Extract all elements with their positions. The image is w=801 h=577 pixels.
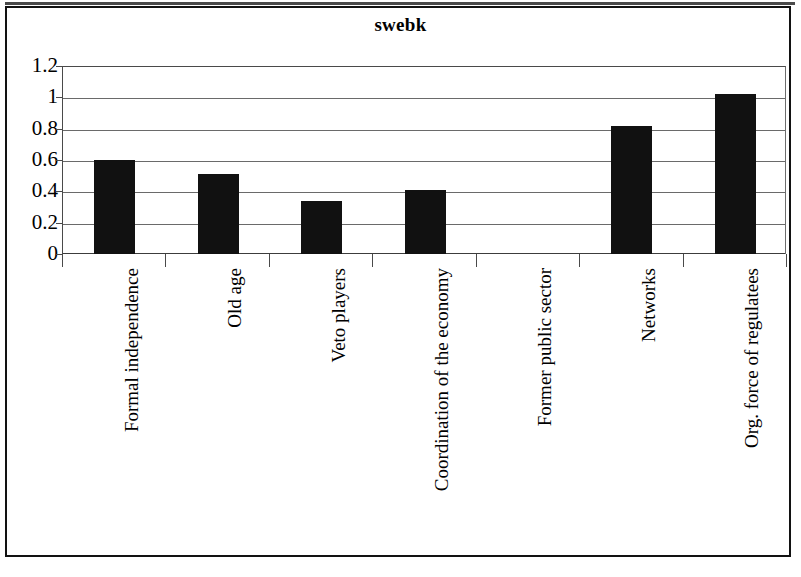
x-axis-label-7: Org. force of regulatees bbox=[742, 268, 762, 448]
x-axis-tick-label: Old age bbox=[225, 268, 245, 328]
x-axis-tick-label: Networks bbox=[639, 268, 659, 342]
bar bbox=[301, 201, 342, 254]
y-axis-tick-label: 0.6 bbox=[2, 149, 58, 170]
chart-title: swebk bbox=[0, 14, 801, 36]
x-axis-tick-label: Coordination of the economy bbox=[432, 268, 452, 491]
y-axis-tick-label: 1.2 bbox=[2, 55, 58, 76]
x-axis-label-6: Networks bbox=[639, 268, 659, 342]
x-axis-tick-mark bbox=[579, 254, 580, 267]
gridline bbox=[63, 130, 785, 131]
x-axis-tick-mark bbox=[683, 254, 684, 267]
y-axis-tick-label: 0 bbox=[2, 243, 58, 264]
y-axis-tick-label: 0.4 bbox=[2, 180, 58, 201]
gridline bbox=[63, 161, 785, 162]
x-axis-label-1: Formal independence bbox=[122, 268, 142, 432]
x-axis-tick-mark bbox=[372, 254, 373, 267]
chart-screenshot: swebk 00.20.40.60.811.2 Formal independe… bbox=[0, 0, 801, 577]
x-axis-label-4: Coordination of the economy bbox=[432, 268, 452, 491]
x-axis-tick-label: Org. force of regulatees bbox=[742, 268, 762, 448]
gridline bbox=[63, 98, 785, 99]
bar bbox=[715, 94, 756, 254]
x-axis-tick-mark bbox=[62, 254, 63, 267]
x-axis-tick-mark bbox=[269, 254, 270, 267]
x-axis-label-3: Veto players bbox=[329, 268, 349, 362]
plot-area bbox=[62, 66, 786, 254]
y-axis: 00.20.40.60.811.2 bbox=[0, 66, 58, 254]
frame-top-edge bbox=[5, 2, 795, 5]
x-axis-tick-mark bbox=[476, 254, 477, 267]
x-axis-tick-label: Veto players bbox=[329, 268, 349, 362]
y-axis-tick-label: 0.2 bbox=[2, 212, 58, 233]
x-axis-tick-label: Former public sector bbox=[535, 268, 555, 426]
x-axis-label-5: Former public sector bbox=[535, 268, 555, 426]
y-axis-tick-label: 0.8 bbox=[2, 118, 58, 139]
x-axis-labels: Formal independenceOld ageVeto playersCo… bbox=[62, 268, 786, 528]
x-axis-tick-label: Formal independence bbox=[122, 268, 142, 432]
bar bbox=[94, 160, 135, 254]
x-axis-label-2: Old age bbox=[225, 268, 245, 328]
bar bbox=[611, 126, 652, 254]
x-axis-tick-mark bbox=[165, 254, 166, 267]
y-axis-tick-label: 1 bbox=[2, 86, 58, 107]
x-axis-tick-mark bbox=[786, 254, 787, 267]
bar bbox=[405, 190, 446, 254]
bar bbox=[198, 174, 239, 254]
